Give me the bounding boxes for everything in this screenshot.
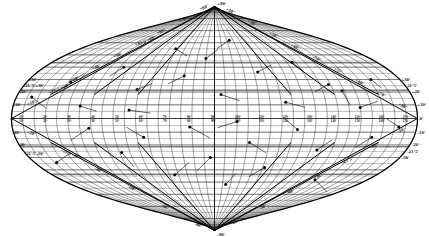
motion-vector [315,180,327,192]
point-marker [248,141,251,144]
motion-vector [249,142,265,152]
left-lat-tick-3: +10° [12,102,21,107]
right-lat-tick-7: -21°5' [407,149,419,154]
point-marker [263,166,266,169]
lr-diag-tick-6: -60° [230,218,239,226]
right-lat-tick-2: +20° [412,89,421,94]
ll-diag-tick-3: -50° [127,184,136,192]
data-point-10 [188,125,210,137]
right-lat-tick-4: 0° [420,116,424,121]
data-point-1 [79,105,97,112]
projection-chart: +90°-90°+30°+21°5'+30°+20°+10°0°-10°-20°… [0,0,429,237]
left-lat-tick-7: -21°5'-30° [25,151,45,156]
equator-lon-label-b-11: 120° [283,119,290,123]
motion-vector [360,101,377,107]
data-point-2 [71,127,91,141]
data-point-33 [340,89,350,105]
data-point-25 [359,101,378,109]
equator-lon-label-b-7: 80° [187,119,192,123]
point-marker [224,183,227,186]
right-lat-tick-5: -10° [418,130,426,135]
data-point-12 [197,156,212,171]
lr-diag-tick-2: -21°5' [341,156,354,165]
data-point-18 [250,166,267,177]
motion-vector [342,91,350,105]
pole-ray [94,7,214,95]
equator-lon-label-b-14: 150° [355,119,362,123]
equator-lon-label-b-10: 110° [259,119,266,123]
point-marker [315,148,318,151]
point-marker [122,66,125,69]
point-marker [327,83,330,86]
point-marker [128,109,131,112]
equator-lon-label-b-0: 10° [19,119,24,123]
equator-lon-label-b-16: 170° [403,119,410,123]
right-lat-tick-6: -20° [412,142,420,147]
equator-lon-label-b-12: 130° [307,119,314,123]
point-marker [173,173,176,176]
left-lat-tick-0: +30° [28,77,37,82]
point-marker [79,105,82,108]
point-marker [340,89,343,92]
motion-vector [206,50,218,59]
left-lat-tick-6: -20° [18,142,26,147]
point-marker [220,93,223,96]
data-point-14 [224,174,236,187]
point-marker [55,161,58,164]
point-marker [87,127,90,130]
chart-root: +90°-90°+30°+21°5'+30°+20°+10°0°-10°-20°… [0,0,429,237]
equator-lon-label-b-9: 100° [235,119,242,123]
lr-diag-tick-5: -50° [258,203,267,211]
point-marker [284,101,287,104]
equator-lon-label-b-8: 90° [211,119,216,123]
point-marker [296,128,299,131]
motion-vector [137,84,152,90]
pole-ray [94,142,214,230]
point-marker [142,136,145,139]
motion-vector [197,157,210,170]
point-marker [370,136,373,139]
right-lat-tick-8: -30° [402,155,410,160]
ul-diag-tick-1: +21°5'+30° [48,82,70,94]
ll-diag-tick-2: -40° [94,166,103,174]
pole-ray [215,142,335,230]
data-point-21 [291,61,304,72]
left-lat-tick-2: +20° [18,89,27,94]
left-lat-tick-1: +21°5'+30° [23,83,45,88]
point-marker [120,151,123,154]
data-point-31 [128,109,151,114]
motion-vector [292,62,303,71]
point-marker [30,96,33,99]
point-marker [369,78,372,81]
point-marker [188,125,191,128]
motion-vector [168,76,184,84]
point-marker [204,57,207,60]
equator-lon-label-b-3: 40° [91,119,96,123]
point-marker [209,156,212,159]
equator-lon-label-b-1: 20° [43,119,48,123]
point-marker [183,74,186,77]
data-point-30 [387,119,401,128]
point-marker [136,88,139,91]
point-marker [291,61,294,64]
equator-lon-label-b-15: 160° [379,119,386,123]
equator-lon-label-b-2: 30° [67,119,72,123]
pole-ray [215,7,335,95]
right-lat-tick-3: +10° [418,102,427,107]
equator-lon-label-b-13: 140° [331,119,338,123]
right-lat-tick-1: 21°5' [407,83,417,88]
pole-label-south: -90° [218,232,226,237]
equator-lon-label-b-5: 60° [139,119,144,123]
left-lat-tick-4: 0° [11,116,15,121]
motion-vector [190,127,210,138]
left-lat-tick-5: -10° [12,130,20,135]
equator-lon-label-b-6: 70° [163,119,168,123]
equator-lon-label-b-4: 50° [115,119,120,123]
point-marker [359,106,362,109]
pole-label-north: +90° [218,1,227,6]
point-marker [174,47,177,50]
point-marker [256,71,259,74]
data-point-4 [120,151,134,167]
motion-vector [175,163,189,175]
motion-vector [217,40,229,48]
